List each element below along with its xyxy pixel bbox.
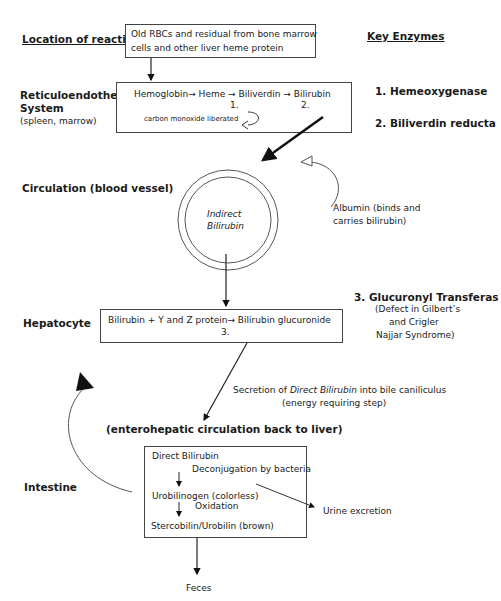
vessel-inner-circle [185, 177, 271, 263]
albumin-arrowhead-icon [301, 156, 312, 166]
arrow-res-to-circulation [263, 117, 323, 160]
enterohepatic-curve-arrow [68, 388, 132, 492]
diagram-connectors [0, 0, 501, 601]
arrow-secretion [204, 343, 247, 420]
co-curl-arrow [248, 112, 259, 125]
co-arrowhead-icon [242, 121, 248, 129]
arrow-urine [256, 484, 314, 507]
enterohepatic-arrowhead-icon [76, 372, 94, 391]
vessel-outer-circle [178, 170, 278, 270]
albumin-curve-arrow [310, 162, 338, 207]
